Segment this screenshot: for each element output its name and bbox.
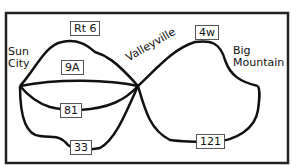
city-sun-city-line2: City [8, 58, 30, 70]
city-sun-city: Sun City [8, 46, 30, 70]
route-label-4w: 4w [195, 25, 219, 40]
route-label-rt6: Rt 6 [70, 21, 100, 36]
route-label-33: 33 [70, 140, 92, 155]
map-frame [6, 13, 288, 163]
route-label-81: 81 [60, 103, 82, 118]
route-label-9a: 9A [61, 60, 84, 75]
city-big-mountain-line2: Mountain [233, 57, 284, 69]
city-big-mountain: Big Mountain [233, 45, 284, 69]
road-map [0, 0, 293, 166]
route-9a-road [20, 81, 138, 86]
route-label-121: 121 [196, 134, 225, 149]
